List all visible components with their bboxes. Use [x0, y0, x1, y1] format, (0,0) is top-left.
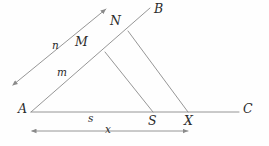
figure-canvas — [0, 0, 269, 146]
vertex-label-X: X — [184, 115, 193, 128]
vertex-label-N: N — [110, 15, 121, 28]
measure-label-n: n — [52, 40, 59, 51]
cevian-N-to-X — [128, 31, 188, 112]
vertex-label-M: M — [75, 36, 88, 49]
vertex-label-S: S — [148, 115, 157, 128]
vertex-label-C: C — [243, 103, 253, 116]
measure-label-s: s — [88, 113, 93, 124]
ray-A-to-B — [31, 8, 150, 112]
measure-label-x: x — [105, 124, 111, 135]
vertex-label-B: B — [154, 3, 163, 16]
geometry-figure: A B C M N S X n m s x — [0, 0, 269, 146]
measure-label-m: m — [57, 67, 67, 78]
vertex-label-A: A — [18, 103, 27, 116]
cevian-M-to-S — [105, 52, 153, 112]
